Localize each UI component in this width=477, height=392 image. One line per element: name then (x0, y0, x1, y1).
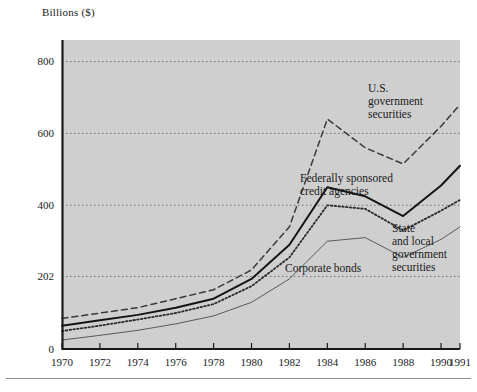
footer-rule (6, 378, 471, 379)
y-tick-label: 800 (10, 56, 54, 67)
annotation-federally-sponsored-credit-agencies: Federally sponsored credit agencies (300, 172, 393, 198)
chart-figure: Billions ($) 0202400600800 1970197219741… (0, 0, 477, 392)
annotation-us-government-securities: U.S. government securities (368, 82, 423, 121)
y-axis-caption: Billions ($) (42, 6, 95, 18)
x-tick-label: 1991 (438, 357, 477, 368)
y-tick-label: 202 (10, 271, 54, 282)
y-tick-label: 0 (10, 344, 54, 355)
annotation-state-and-local-government-securities: State and local government securities (392, 222, 447, 274)
y-tick-label: 400 (10, 200, 54, 211)
y-tick-label: 600 (10, 128, 54, 139)
annotation-corporate-bonds: Corporate bonds (285, 262, 361, 275)
